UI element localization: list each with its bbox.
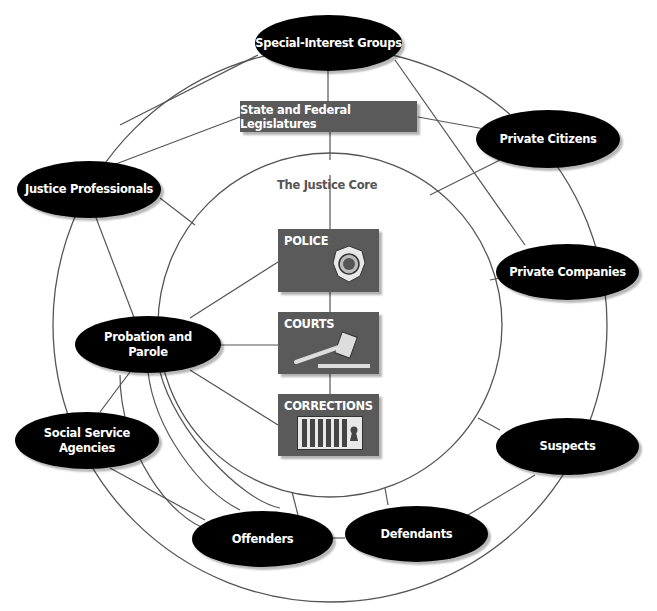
diagram-lines bbox=[0, 0, 657, 611]
courts-box: COURTS bbox=[278, 312, 379, 374]
node-private-citizens: Private Citizens bbox=[476, 110, 620, 168]
corrections-box: CORRECTIONS bbox=[278, 394, 379, 456]
justice-core-label: The Justice Core bbox=[277, 178, 377, 192]
node-defendants: Defendants bbox=[345, 506, 488, 562]
node-offenders: Offenders bbox=[192, 511, 333, 567]
node-label: Suspects bbox=[539, 439, 595, 453]
police-box: POLICE bbox=[278, 229, 379, 292]
legislatures-label: State and Federal Legislatures bbox=[240, 103, 417, 131]
node-label: Offenders bbox=[232, 532, 294, 546]
node-special-interest-groups: Special-Interest Groups bbox=[255, 15, 402, 71]
node-justice-professionals: Justice Professionals bbox=[17, 161, 161, 218]
node-label: Private Companies bbox=[509, 265, 626, 279]
node-label-line1: Probation and bbox=[104, 330, 192, 344]
node-social-service-agencies: Social Service Agencies bbox=[15, 412, 159, 469]
node-private-companies: Private Companies bbox=[496, 244, 639, 300]
node-label-line2: Parole bbox=[128, 345, 167, 359]
police-label: POLICE bbox=[284, 234, 328, 248]
courts-label: COURTS bbox=[284, 317, 334, 331]
legislatures-box: State and Federal Legislatures bbox=[240, 101, 417, 132]
node-label: Social Service Agencies bbox=[15, 426, 159, 455]
node-label: Justice Professionals bbox=[25, 182, 153, 196]
gavel-icon bbox=[288, 330, 374, 372]
node-suspects: Suspects bbox=[496, 418, 639, 475]
node-probation-and-parole: Probation and Parole bbox=[75, 316, 221, 373]
police-badge-icon bbox=[328, 243, 370, 285]
node-label: Private Citizens bbox=[499, 132, 596, 146]
node-label: Defendants bbox=[381, 527, 453, 541]
jail-cell-icon bbox=[297, 416, 363, 450]
node-label: Special-Interest Groups bbox=[255, 36, 402, 50]
corrections-label: CORRECTIONS bbox=[284, 399, 373, 413]
